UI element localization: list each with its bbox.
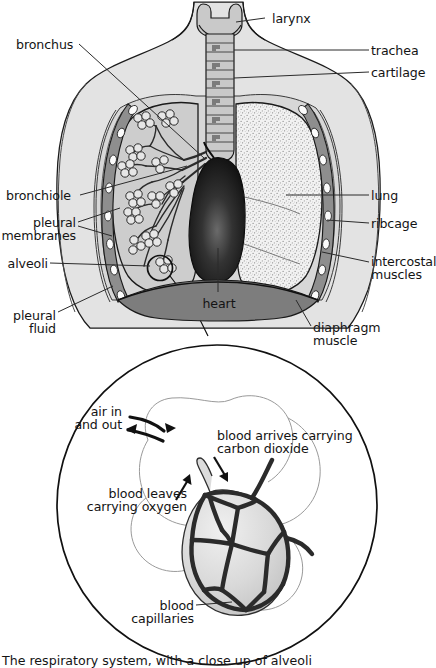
label-blood-arrives-carbon-dioxide: blood arrives carrying carbon dioxide: [217, 429, 353, 456]
figure-caption: The respiratory system, with a close up …: [2, 654, 312, 668]
label-intercostal-muscles: intercostal muscles: [371, 255, 436, 282]
lung-right: [236, 103, 322, 295]
trachea: [206, 34, 234, 160]
label-ribcage: ribcage: [371, 217, 417, 230]
label-larynx: larynx: [272, 12, 311, 25]
label-trachea: trachea: [371, 44, 419, 57]
label-blood-capillaries: blood capillaries: [60, 599, 194, 626]
label-bronchus: bronchus: [16, 38, 73, 51]
label-bronchiole: bronchiole: [6, 189, 71, 202]
label-pleural-fluid: pleural fluid: [0, 309, 56, 336]
label-heart: heart: [196, 297, 242, 310]
label-pleural-membranes: pleural membranes: [0, 216, 76, 243]
label-air-in-and-out: air in and out: [40, 405, 122, 432]
label-blood-leaves-oxygen: blood leaves carrying oxygen: [42, 487, 187, 514]
label-lung: lung: [371, 189, 398, 202]
label-diaphragm-muscle: diaphragm muscle: [313, 321, 380, 348]
label-cartilage: cartilage: [371, 66, 425, 79]
label-alveoli: alveoli: [0, 257, 48, 270]
